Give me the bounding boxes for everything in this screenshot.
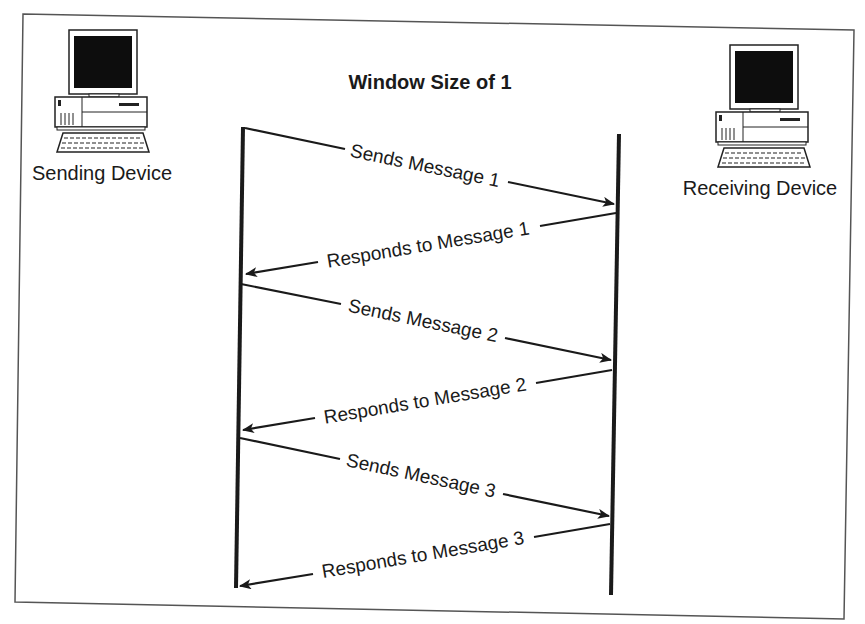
sequence-diagram: Window Size of 1 Sending Device: [0, 0, 865, 624]
sending-device: [55, 30, 149, 152]
receiving-device-label: Receiving Device: [683, 177, 838, 199]
sending-device-label: Sending Device: [32, 162, 172, 184]
desktop-computer-icon: [55, 30, 149, 152]
desktop-computer-icon: [716, 45, 810, 167]
receiving-device: [716, 45, 810, 167]
diagram-title: Window Size of 1: [348, 71, 511, 93]
